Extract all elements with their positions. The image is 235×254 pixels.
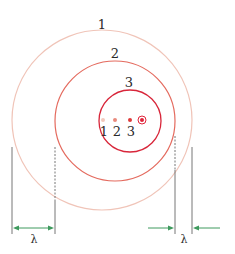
emission-label-2: 2	[113, 124, 121, 139]
emission-point-2	[113, 118, 117, 122]
wavefront-label-3: 3	[125, 75, 133, 90]
right-wavelength-arrows	[148, 226, 220, 231]
wavefront-label-1: 1	[98, 17, 106, 32]
emission-label-3: 3	[127, 124, 135, 139]
source-dot-icon	[140, 118, 144, 122]
right-lambda-label: λ	[181, 233, 188, 246]
emission-label-1: 1	[100, 124, 108, 139]
left-wavelength-arrow	[13, 226, 54, 231]
left-lambda-label: λ	[31, 233, 38, 246]
wavefront-label-2: 2	[111, 46, 119, 61]
emission-point-3	[128, 118, 132, 122]
doppler-diagram: 1 2 3 1 2 3 λ λ	[0, 0, 235, 254]
emission-point-1	[101, 118, 105, 122]
